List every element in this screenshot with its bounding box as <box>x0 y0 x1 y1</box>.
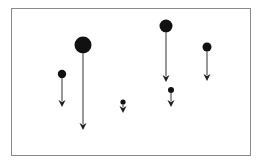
mass-circle <box>58 70 66 78</box>
mass-circle <box>120 99 125 104</box>
diagram-frame <box>12 9 251 156</box>
mass-circle <box>203 43 212 52</box>
diagram-canvas <box>0 0 258 165</box>
mass-circle <box>168 87 174 93</box>
mass-circle <box>160 20 173 33</box>
mass-circle <box>75 37 92 54</box>
